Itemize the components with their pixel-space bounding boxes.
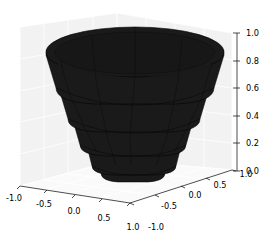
x-tick-label-2: 0.0 xyxy=(67,206,80,216)
z-tick-label-0: 0.0 xyxy=(246,166,259,176)
x-tick-label-3: 0.5 xyxy=(97,213,110,223)
surface-plot-3d: -1.0 -0.5 0.0 0.5 1.0 1.0 0.5 0.0 -0.5 -… xyxy=(0,0,276,243)
x-tick-label-0: -1.0 xyxy=(6,193,22,203)
z-tick-label-1: 0.2 xyxy=(246,138,259,148)
axes-3d-box: -1.0 -0.5 0.0 0.5 1.0 1.0 0.5 0.0 -0.5 -… xyxy=(6,13,259,232)
y-tick-label-2: 0.0 xyxy=(188,190,201,200)
z-tick-label-2: 0.4 xyxy=(246,111,259,121)
z-tick-label-4: 0.8 xyxy=(246,56,259,66)
figure-canvas: -1.0 -0.5 0.0 0.5 1.0 1.0 0.5 0.0 -0.5 -… xyxy=(0,0,276,243)
y-tick-label-3: -0.5 xyxy=(161,201,177,211)
z-tick-label-5: 1.0 xyxy=(246,28,259,38)
x-tick-label-4: 1.0 xyxy=(126,222,139,232)
x-tick-label-1: -0.5 xyxy=(36,199,52,209)
y-tick-label-1: 0.5 xyxy=(213,180,226,190)
y-tick-label-4: -1.0 xyxy=(148,222,164,232)
z-tick-label-3: 0.6 xyxy=(246,83,259,93)
